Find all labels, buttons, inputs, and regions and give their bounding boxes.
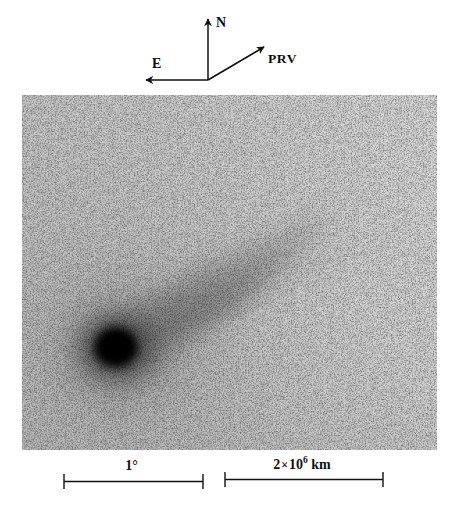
compass-rose: N E PRV — [120, 2, 330, 92]
linear-scale-unit: km — [311, 457, 330, 472]
comet-image-plate — [22, 95, 437, 450]
east-label: E — [152, 56, 162, 72]
angular-scale-caption: 1° — [60, 458, 203, 474]
comet-figure: N E PRV — [0, 0, 457, 510]
linear-scale-base: 10 — [289, 457, 303, 472]
prv-label: PRV — [268, 51, 297, 67]
plate-mottle — [22, 95, 437, 450]
degree-symbol: ° — [132, 458, 138, 473]
prv-axis-icon — [208, 47, 264, 80]
linear-scale-exponent: 6 — [303, 455, 308, 465]
linear-scale-caption: 2×106 km — [221, 455, 383, 473]
multiplication-sign: × — [280, 458, 289, 472]
north-label: N — [216, 15, 227, 31]
